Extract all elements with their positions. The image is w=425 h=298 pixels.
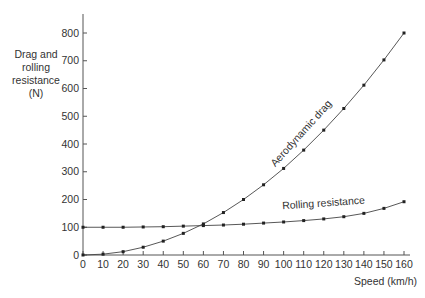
x-tick-label: 140 xyxy=(355,258,373,270)
data-point-marker xyxy=(322,129,325,132)
data-point-marker xyxy=(122,250,125,253)
y-tick-label: 500 xyxy=(61,110,79,122)
chart-canvas: 0100200300400500600700800010203040506070… xyxy=(0,0,425,298)
data-point-marker xyxy=(262,183,265,186)
data-point-marker xyxy=(102,253,105,256)
data-point-marker xyxy=(302,219,305,222)
x-tick-label: 90 xyxy=(258,258,270,270)
y-tick-label: 800 xyxy=(61,27,79,39)
y-tick-label: 200 xyxy=(61,193,79,205)
series-line-aerodynamic-drag xyxy=(83,33,404,255)
rolling-resistance-label: Rolling resistance xyxy=(282,194,366,212)
x-tick-label: 50 xyxy=(177,258,189,270)
data-point-marker xyxy=(102,226,105,229)
data-point-marker xyxy=(122,226,125,229)
data-point-marker xyxy=(222,211,225,214)
data-point-marker xyxy=(162,240,165,243)
data-point-marker xyxy=(242,223,245,226)
x-tick-label: 150 xyxy=(375,258,393,270)
x-tick-label: 120 xyxy=(315,258,333,270)
y-tick-label: 0 xyxy=(73,249,79,261)
x-tick-label: 70 xyxy=(218,258,230,270)
data-point-marker xyxy=(362,84,365,87)
data-point-marker xyxy=(162,225,165,228)
aerodynamic-drag-label: Aerodynamic drag xyxy=(268,97,334,168)
x-tick-label: 80 xyxy=(238,258,250,270)
x-tick-label: 20 xyxy=(117,258,129,270)
data-point-marker xyxy=(382,58,385,61)
data-point-marker xyxy=(382,207,385,210)
data-point-marker xyxy=(142,225,145,228)
x-tick-label: 60 xyxy=(198,258,210,270)
y-tick-label: 100 xyxy=(61,221,79,233)
data-point-marker xyxy=(322,217,325,220)
data-point-marker xyxy=(403,200,406,203)
y-label-line: Drag and xyxy=(0,48,72,61)
data-point-marker xyxy=(182,232,185,235)
y-label-line: (N) xyxy=(0,87,72,100)
data-point-marker xyxy=(302,149,305,152)
y-label-line: resistance xyxy=(0,74,72,87)
data-point-marker xyxy=(242,198,245,201)
x-tick-label: 110 xyxy=(295,258,312,270)
data-point-marker xyxy=(82,226,85,229)
data-point-marker xyxy=(362,212,365,215)
data-point-marker xyxy=(282,167,285,170)
y-label-line: rolling xyxy=(0,61,72,74)
x-tick-label: 160 xyxy=(395,258,413,270)
data-point-marker xyxy=(82,254,85,257)
x-axis-label: Speed (km/h) xyxy=(354,275,417,287)
data-point-marker xyxy=(202,224,205,227)
data-point-marker xyxy=(262,222,265,225)
x-tick-label: 10 xyxy=(97,258,109,270)
y-tick-label: 400 xyxy=(61,138,79,150)
x-tick-label: 130 xyxy=(335,258,353,270)
data-point-marker xyxy=(182,225,185,228)
x-tick-label: 0 xyxy=(80,258,86,270)
y-tick-label: 300 xyxy=(61,165,79,177)
x-tick-label: 30 xyxy=(137,258,149,270)
y-axis-label: Drag and rolling resistance (N) xyxy=(0,48,72,100)
data-point-marker xyxy=(342,215,345,218)
data-point-marker xyxy=(342,107,345,110)
x-tick-label: 100 xyxy=(275,258,293,270)
data-point-marker xyxy=(282,220,285,223)
data-point-marker xyxy=(222,224,225,227)
data-point-marker xyxy=(142,246,145,249)
x-tick-label: 40 xyxy=(157,258,169,270)
data-point-marker xyxy=(403,32,406,35)
